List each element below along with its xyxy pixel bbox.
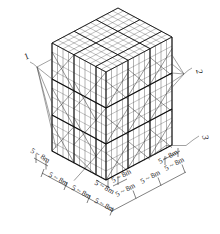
dimension-label-right-2: 5 ~ 8m [139, 168, 162, 186]
main-standards-outline [52, 37, 172, 180]
dimension-label-right-1: 5 ~ 8m [114, 181, 137, 199]
top-deck-lattice [52, 8, 172, 72]
scaffold-isometric-drawing: 1 2 3 5 ~ 8m 5 ~ 8m 5 ~ 8m 5 ~ 8m 5 ~ 8m… [0, 0, 220, 234]
tier-bands [52, 73, 172, 180]
dimension-label-left-3: 5 ~ 8m [93, 196, 116, 214]
left-face-verticals [52, 43, 106, 181]
left-face-x-bracing [52, 52, 106, 181]
dimension-label-left-2: 5 ~ 8m [70, 183, 93, 201]
dimension-label-left-1: 5 ~ 8m [47, 170, 70, 188]
callout-label-1: 1 [22, 51, 31, 62]
callout-label-3: 3 [200, 133, 211, 141]
callout-leaders [30, 55, 199, 157]
figure-canvas: 1 2 3 5 ~ 8m 5 ~ 8m 5 ~ 8m 5 ~ 8m 5 ~ 8m… [0, 0, 220, 234]
callout-label-2: 2 [194, 68, 205, 75]
